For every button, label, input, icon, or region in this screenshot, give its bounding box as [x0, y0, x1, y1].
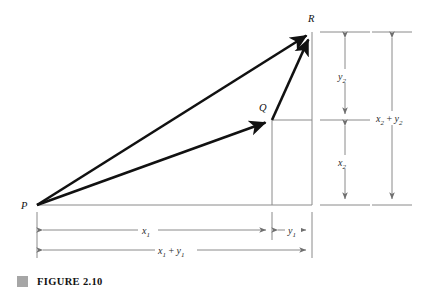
vector-diagram-svg: P Q R x1 y1 x1 + y1 [0, 0, 426, 299]
horizontal-dimension-group: x1 y1 x1 + y1 [37, 212, 312, 259]
vector-arrows [37, 36, 308, 206]
point-label-q: Q [259, 102, 267, 113]
vertical-dimension-group: y2 x2 x2 + y2 [320, 32, 412, 205]
figure-caption: FIGURE 2.10 [17, 276, 103, 287]
vector-p-to-r [37, 36, 307, 206]
square-marker-icon [17, 276, 28, 287]
vector-p-to-q [37, 123, 266, 206]
point-label-r: R [307, 13, 315, 24]
figure-container: P Q R x1 y1 x1 + y1 [0, 0, 426, 299]
figure-caption-label: FIGURE 2.10 [37, 276, 103, 287]
point-label-p: P [20, 200, 28, 211]
vector-q-to-r [272, 40, 308, 121]
